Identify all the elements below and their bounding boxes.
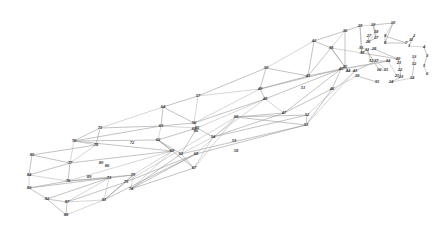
truss-member [362,53,398,59]
node-label-38: 38 [329,46,333,51]
truss-member [32,155,70,163]
truss-member [74,126,161,141]
node-label-23: 23 [399,75,403,80]
node-label-89: 89 [87,175,91,180]
node-label-78: 78 [94,143,98,148]
truss-member [66,200,104,215]
node-label-37: 37 [374,59,378,64]
node-label-12: 12 [412,62,416,67]
node-label-27: 27 [367,34,371,39]
node-label-66: 66 [194,129,198,134]
node-label-83: 83 [27,186,31,191]
truss-member [236,117,306,125]
node-label-41: 41 [306,74,310,79]
node-label-63: 63 [159,124,163,129]
node-label-49: 49 [258,87,262,92]
node-label-57: 57 [196,94,200,99]
node-label-45: 45 [343,65,347,70]
truss-member [74,140,158,141]
node-label-68: 68 [194,152,198,157]
node-label-62: 62 [156,138,160,143]
node-label-31: 31 [365,48,369,53]
node-label-39: 39 [355,74,359,79]
node-label-5: 5 [423,64,425,69]
node-label-4: 4 [423,45,425,50]
truss-member [284,89,332,113]
node-label-73: 73 [107,176,111,181]
node-label-58: 58 [234,149,238,154]
node-label-82: 82 [45,197,49,202]
truss-member [29,163,70,175]
node-label-16: 16 [377,68,381,73]
node-label-25: 25 [395,74,399,79]
truss-member [385,23,393,43]
node-label-69: 69 [170,149,174,154]
node-label-86: 86 [105,164,109,169]
node-label-75: 75 [124,180,128,185]
node-label-53: 53 [304,123,308,128]
node-label-42: 42 [312,39,316,44]
node-label-19: 19 [371,23,375,28]
node-label-48: 48 [263,97,267,102]
node-label-2: 2 [413,34,415,39]
node-label-35: 35 [375,80,379,85]
truss-diagram-figure: 1234567891011121314151617181920212223242… [0,0,433,236]
truss-member [29,181,68,188]
node-label-22: 22 [398,68,402,73]
truss-member [331,48,362,53]
truss-member [32,145,96,155]
node-label-33: 33 [359,46,363,51]
node-label-7: 7 [405,41,407,46]
node-label-11: 11 [409,38,413,43]
truss-member [194,89,260,123]
node-label-10: 10 [391,21,395,26]
truss-member [266,68,308,76]
truss-member [198,68,266,96]
node-label-6: 6 [426,72,428,77]
node-label-3: 3 [426,54,428,59]
node-label-47: 47 [282,111,286,116]
truss-member [70,151,172,163]
node-label-60: 60 [234,115,238,120]
node-label-85: 85 [30,153,34,158]
node-label-71: 71 [98,126,102,131]
node-label-9: 9 [384,34,386,39]
truss-member [308,41,314,76]
node-label-14: 14 [410,76,414,81]
truss-member [385,36,406,43]
node-label-46: 46 [330,87,334,92]
node-label-8: 8 [384,41,386,46]
node-label-80: 80 [99,161,103,166]
node-label-64: 64 [161,105,165,110]
node-label-26: 26 [366,40,370,45]
node-label-18: 18 [374,30,378,35]
node-label-29: 29 [358,24,362,29]
truss-member [131,168,194,189]
truss-member [196,125,306,154]
node-label-36: 36 [343,29,347,34]
node-label-30: 30 [360,51,364,56]
node-label-24: 24 [389,80,393,85]
node-label-56: 56 [192,121,196,126]
node-label-34: 34 [386,59,390,64]
node-label-17: 17 [374,36,378,41]
node-label-44: 44 [346,69,350,74]
node-label-1: 1 [408,44,410,49]
node-label-59: 59 [232,139,236,144]
node-label-13: 13 [412,55,416,60]
truss-member [163,96,198,107]
truss-member [161,123,194,126]
node-label-51: 51 [301,86,305,91]
node-label-15: 15 [384,68,388,73]
node-label-87: 87 [65,200,69,205]
node-label-70: 70 [72,139,76,144]
truss-member [314,31,345,41]
truss-member [409,46,424,47]
node-label-28: 28 [372,47,376,52]
node-label-81: 81 [102,198,106,203]
truss-member [198,89,260,96]
truss-member [306,89,332,125]
node-label-84: 84 [27,173,31,178]
node-label-76: 76 [66,179,70,184]
node-label-52: 52 [305,113,309,118]
